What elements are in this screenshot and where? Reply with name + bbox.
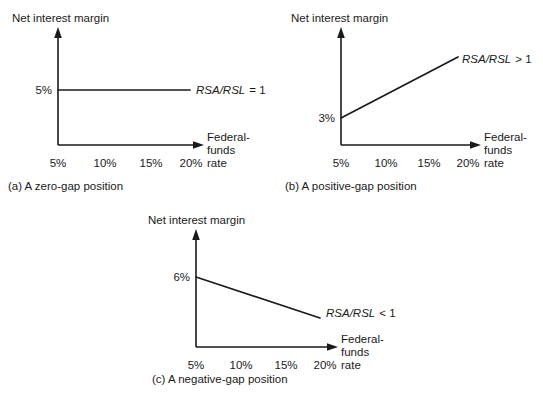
panel-c-y-axis-arrowhead — [192, 229, 200, 240]
panel-a-x-axis-title-line1: Federal- — [207, 131, 250, 143]
panel-b-y-axis-title: Net interest margin — [291, 12, 388, 24]
panel-b-y-axis-arrowhead — [337, 27, 345, 38]
panel-a-x-axis-title-line3: rate — [207, 157, 227, 169]
panel-b-x-tick-5: 5% — [333, 157, 350, 169]
panel-a-x-tick-20: 20% — [179, 157, 202, 169]
panel-c-negative-gap: Net interest margin 6% RSA/RSL< 1 5% 10%… — [148, 214, 396, 385]
panel-b-series-label-ratio: RSA/RSL — [462, 53, 511, 65]
panel-c-caption: (c) A negative-gap position — [152, 373, 288, 385]
panel-c-x-axis-title-line1: Federal- — [341, 333, 384, 345]
panel-b-series-label: RSA/RSL> 1 — [462, 53, 532, 65]
panel-c-series-label-relation: < 1 — [379, 307, 395, 319]
panel-c-y-axis-title: Net interest margin — [148, 214, 245, 226]
panel-b-y-value-label: 3% — [318, 112, 335, 124]
panel-c-x-axis-title-line2: funds — [341, 346, 369, 358]
panel-c-x-axis-arrowhead — [327, 343, 338, 351]
panel-b-x-tick-20: 20% — [456, 157, 479, 169]
panel-a-series-label-relation: = 1 — [249, 84, 265, 96]
panel-b-caption: (b) A positive-gap position — [285, 180, 417, 192]
panel-a-y-axis-arrowhead — [54, 27, 62, 38]
panel-a-x-tick-5: 5% — [50, 157, 67, 169]
figure-three-gap-position-charts: Net interest margin 5% RSA/RSL= 1 5% 10%… — [0, 0, 543, 394]
panel-c-x-tick-20: 20% — [313, 359, 336, 371]
panel-c-x-tick-10: 10% — [229, 359, 252, 371]
panel-b-x-tick-15: 15% — [417, 157, 440, 169]
panel-a-series-label-ratio: RSA/RSL — [196, 84, 245, 96]
panel-c-y-value-label: 6% — [173, 271, 190, 283]
panel-c-series-label-ratio: RSA/RSL — [326, 307, 375, 319]
panel-a-y-axis-title: Net interest margin — [12, 12, 109, 24]
panel-b-x-axis-title-line2: funds — [484, 144, 512, 156]
panel-b-positive-gap: Net interest margin 3% RSA/RSL> 1 5% 10%… — [285, 12, 532, 192]
panel-b-series-line-rsa-rsl-greater-1 — [341, 57, 458, 118]
panel-a-x-axis-arrowhead — [193, 141, 204, 149]
panel-b-x-axis-title-line1: Federal- — [484, 131, 527, 143]
panel-a-zero-gap: Net interest margin 5% RSA/RSL= 1 5% 10%… — [8, 12, 266, 192]
panel-c-x-axis-title-line3: rate — [341, 359, 361, 371]
panel-b-x-tick-10: 10% — [374, 157, 397, 169]
panel-b-x-axis-arrowhead — [470, 141, 481, 149]
panel-b-series-label-relation: > 1 — [515, 53, 531, 65]
panel-b-x-axis-title-line3: rate — [484, 157, 504, 169]
panel-a-x-tick-10: 10% — [93, 157, 116, 169]
panel-c-series-label: RSA/RSL< 1 — [326, 307, 396, 319]
panel-a-x-axis-title-line2: funds — [207, 144, 235, 156]
panel-c-series-line-rsa-rsl-less-1 — [196, 277, 320, 318]
panel-c-x-tick-15: 15% — [274, 359, 297, 371]
panel-a-y-value-label: 5% — [35, 84, 52, 96]
panel-a-x-tick-15: 15% — [139, 157, 162, 169]
panel-c-x-tick-5: 5% — [188, 359, 205, 371]
panel-a-caption: (a) A zero-gap position — [8, 180, 123, 192]
panel-a-series-label: RSA/RSL= 1 — [196, 84, 266, 96]
